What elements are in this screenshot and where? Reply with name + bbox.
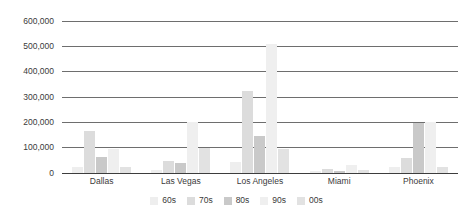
legend-swatch-icon xyxy=(260,197,268,205)
bar-chart: 0100,000200,000300,000400,000500,000600,… xyxy=(0,0,473,218)
bar xyxy=(278,149,289,173)
bar xyxy=(389,167,400,173)
legend-swatch-icon xyxy=(224,197,232,205)
y-tick-label: 200,000 xyxy=(23,118,54,127)
x-tick-label: Miami xyxy=(328,176,351,186)
bar xyxy=(84,131,95,173)
legend-swatch-icon xyxy=(297,197,305,205)
chart-legend: 60s70s80s90s00s xyxy=(0,196,473,205)
bar xyxy=(187,122,198,173)
bar xyxy=(242,91,253,173)
y-tick-label: 500,000 xyxy=(23,42,54,51)
x-tick-label: Las Vegas xyxy=(161,176,201,186)
bar xyxy=(437,167,448,173)
y-tick-label: 600,000 xyxy=(23,17,54,26)
y-axis: 0100,000200,000300,000400,000500,000600,… xyxy=(0,0,58,218)
bar xyxy=(425,122,436,173)
y-tick-label: 300,000 xyxy=(23,93,54,102)
legend-item[interactable]: 90s xyxy=(260,196,286,205)
bar xyxy=(120,167,131,173)
legend-label: 70s xyxy=(199,196,213,205)
bar xyxy=(199,148,210,173)
bar-group xyxy=(141,21,220,173)
x-tick-label: Phoenix xyxy=(403,176,434,186)
y-tick-label: 100,000 xyxy=(23,143,54,152)
bar xyxy=(151,170,162,173)
legend-item[interactable]: 70s xyxy=(187,196,213,205)
bar xyxy=(401,158,412,173)
bar xyxy=(175,163,186,173)
bars-layer xyxy=(62,21,458,173)
bar xyxy=(358,170,369,173)
legend-item[interactable]: 00s xyxy=(297,196,323,205)
legend-label: 90s xyxy=(272,196,286,205)
plot-area xyxy=(62,21,458,173)
legend-item[interactable]: 80s xyxy=(224,196,250,205)
x-axis: DallasLas VegasLos AngelesMiamiPhoenix xyxy=(62,176,458,190)
x-tick-label: Dallas xyxy=(90,176,114,186)
bar xyxy=(310,171,321,173)
bar xyxy=(334,171,345,173)
bar xyxy=(322,169,333,173)
bar-group xyxy=(62,21,141,173)
bar-group xyxy=(220,21,299,173)
legend-label: 00s xyxy=(309,196,323,205)
bar xyxy=(96,157,107,173)
bar xyxy=(413,123,424,173)
y-tick-label: 400,000 xyxy=(23,67,54,76)
bar xyxy=(230,162,241,173)
bar xyxy=(72,167,83,173)
legend-swatch-icon xyxy=(187,197,195,205)
bar-group xyxy=(379,21,458,173)
bar xyxy=(108,149,119,173)
bar xyxy=(163,161,174,173)
bar xyxy=(254,136,265,173)
bar xyxy=(266,44,277,173)
legend-item[interactable]: 60s xyxy=(150,196,176,205)
x-tick-label: Los Angeles xyxy=(237,176,283,186)
bar xyxy=(346,165,357,173)
legend-label: 80s xyxy=(236,196,250,205)
legend-label: 60s xyxy=(162,196,176,205)
legend-swatch-icon xyxy=(150,197,158,205)
y-tick-label: 0 xyxy=(49,169,54,178)
bar-group xyxy=(300,21,379,173)
